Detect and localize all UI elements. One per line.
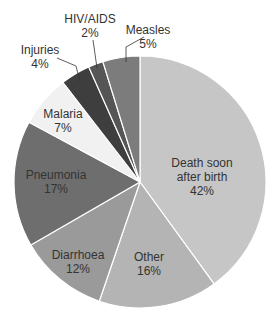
- slice-label-measles: Measles5%: [126, 23, 171, 51]
- slice-label-other: Other16%: [134, 250, 164, 278]
- slice-label-diarrhoea: Diarrhoea12%: [52, 248, 105, 276]
- slice-label-injuries: Injuries4%: [21, 43, 60, 71]
- slice-label-malaria: Malaria7%: [43, 107, 82, 135]
- slice-label-death-soon-after-birth: Death soonafter birth42%: [171, 156, 232, 198]
- slice-label-pneumonia: Pneumonia17%: [26, 168, 87, 196]
- pie-chart: Death soonafter birth42%Other16%Diarrhoe…: [0, 0, 274, 319]
- slice-label-hiv-aids: HIV/AIDS2%: [64, 12, 115, 40]
